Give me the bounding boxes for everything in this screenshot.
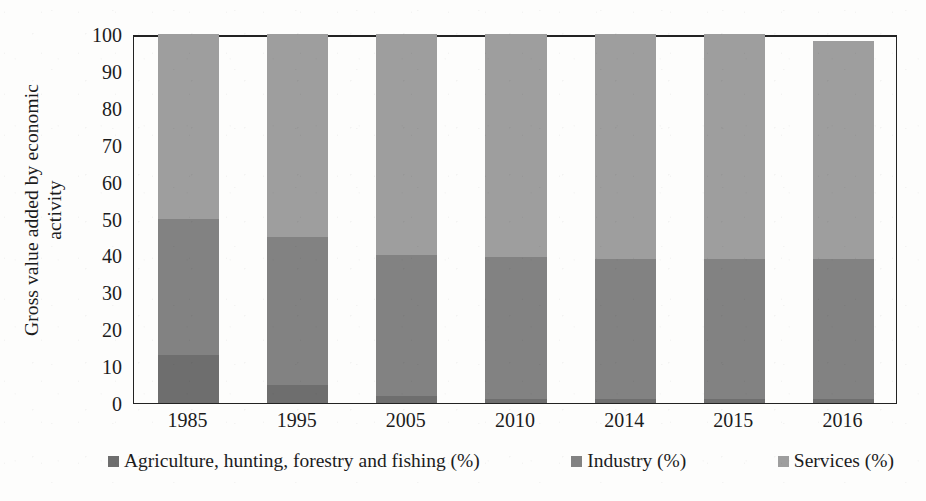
y-axis-tick-label: 60 [102,173,122,193]
x-axis-tick-label: 1985 [168,408,208,432]
bar-segment[interactable] [813,259,874,399]
chart-figure: Gross value added by economic activity 1… [0,0,926,501]
bar-segment[interactable] [813,399,874,403]
y-axis-tick-label: 100 [92,25,122,45]
bars-layer [134,37,896,403]
legend-item[interactable]: Agriculture, hunting, forestry and fishi… [108,450,480,472]
stacked-bar[interactable] [376,34,437,403]
y-axis-tick-label: 0 [112,394,122,414]
bar-segment[interactable] [376,396,437,403]
bar-group [243,37,352,403]
bar-group [134,37,243,403]
bar-segment[interactable] [267,34,328,237]
bar-segment[interactable] [376,34,437,255]
plot-area [133,35,897,404]
legend-item-label: Services (%) [794,450,894,472]
y-axis-tick-labels: 1009080706050403020100 [70,22,128,412]
square-swatch-icon [778,456,789,467]
y-axis-tick-label: 90 [102,62,122,82]
stacked-bar[interactable] [813,41,874,403]
bar-group [789,37,898,403]
bar-segment[interactable] [704,259,765,399]
y-axis-tick-label: 80 [102,99,122,119]
bar-segment[interactable] [267,385,328,403]
y-axis-tick-label: 30 [102,283,122,303]
x-axis-tick-label: 2010 [495,408,535,432]
stacked-bar[interactable] [595,34,656,403]
bar-segment[interactable] [158,34,219,219]
bar-segment[interactable] [158,355,219,403]
bar-segment[interactable] [485,399,546,403]
legend-item-label: Industry (%) [587,450,686,472]
bar-segment[interactable] [485,34,546,257]
bar-segment[interactable] [485,257,546,399]
stacked-bar[interactable] [267,34,328,403]
x-axis-tick-label: 1995 [277,408,317,432]
x-axis-tick-label: 2016 [822,408,862,432]
stacked-bar[interactable] [158,34,219,403]
x-axis-tick-labels: 1985199520052010201420152016 [133,408,897,438]
bar-segment[interactable] [704,34,765,259]
y-axis-tick-label: 70 [102,136,122,156]
x-axis-tick-label: 2015 [713,408,753,432]
chart-legend: Agriculture, hunting, forestry and fishi… [108,444,908,478]
square-swatch-icon [108,456,119,467]
bar-segment[interactable] [158,219,219,356]
legend-item-label: Agriculture, hunting, forestry and fishi… [124,450,480,472]
x-axis-tick-label: 2005 [386,408,426,432]
stacked-bar[interactable] [704,34,765,403]
legend-item[interactable]: Industry (%) [571,450,686,472]
square-swatch-icon [571,456,582,467]
bar-group [461,37,570,403]
bar-segment[interactable] [813,41,874,259]
legend-item[interactable]: Services (%) [778,450,894,472]
bar-segment[interactable] [595,34,656,259]
y-axis-tick-label: 10 [102,357,122,377]
bar-segment[interactable] [595,399,656,403]
bar-group [352,37,461,403]
y-axis-title-line-2: activity [43,84,66,336]
y-axis-tick-label: 50 [102,210,122,230]
bar-segment[interactable] [704,399,765,403]
bar-segment[interactable] [376,255,437,395]
bar-segment[interactable] [595,259,656,399]
y-axis-tick-label: 20 [102,320,122,340]
y-axis-title-line-1: Gross value added by economic [21,84,42,336]
y-axis-tick-label: 40 [102,246,122,266]
x-axis-tick-label: 2014 [604,408,644,432]
bar-group [680,37,789,403]
bar-group [571,37,680,403]
stacked-bar[interactable] [485,34,546,403]
bar-segment[interactable] [267,237,328,385]
